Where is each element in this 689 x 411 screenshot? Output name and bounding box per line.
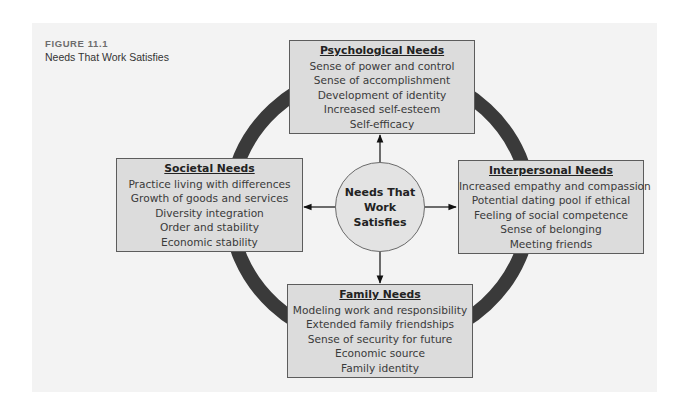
interpersonal-need-item: Increased empathy and compassion [459,179,643,194]
center-label-line2: Work Satisfies [353,201,406,229]
interpersonal-need-item: Feeling of social competence [459,208,643,223]
psychological-needs-heading: Psychological Needs [290,44,474,59]
interpersonal-needs-heading: Interpersonal Needs [459,164,643,179]
psychological-need-item: Self-efficacy [290,117,474,132]
center-label-line1: Needs That [345,186,415,199]
family-need-item: Extended family friendships [288,317,472,332]
psychological-need-item: Development of identity [290,88,474,103]
family-need-item: Sense of security for future [288,332,472,347]
societal-need-item: Economic stability [117,235,302,250]
family-need-item: Modeling work and responsibility [288,303,472,318]
societal-need-item: Practice living with differences [117,177,302,192]
psychological-needs-box: Psychological Needs Sense of power and c… [289,40,475,134]
societal-need-item: Order and stability [117,220,302,235]
family-needs-heading: Family Needs [288,288,472,303]
interpersonal-need-item: Meeting friends [459,237,643,252]
societal-needs-heading: Societal Needs [117,162,302,177]
psychological-need-item: Sense of power and control [290,59,474,74]
psychological-need-item: Increased self-esteem [290,102,474,117]
societal-need-item: Growth of goods and services [117,191,302,206]
societal-needs-box: Societal Needs Practice living with diff… [116,158,303,252]
interpersonal-need-item: Sense of belonging [459,222,643,237]
societal-need-item: Diversity integration [117,206,302,221]
center-node: Needs That Work Satisfies [335,162,425,252]
family-needs-box: Family Needs Modeling work and responsib… [287,284,473,378]
psychological-need-item: Sense of accomplishment [290,73,474,88]
family-need-item: Family identity [288,361,472,376]
interpersonal-need-item: Potential dating pool if ethical [459,193,643,208]
interpersonal-needs-box: Interpersonal Needs Increased empathy an… [458,160,644,254]
family-need-item: Economic source [288,346,472,361]
